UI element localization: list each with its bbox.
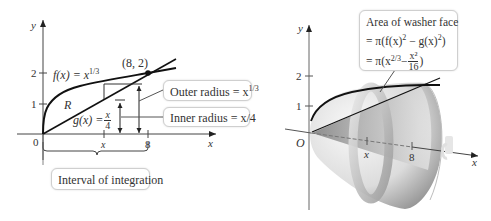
right-y-tick-2: 2 (296, 70, 302, 82)
washer-callout-line1: Area of washer face (366, 15, 451, 30)
right-x-tick-x: x (363, 148, 369, 160)
right-origin-label: O (296, 136, 305, 150)
washer-area-callout: Area of washer face = π(f(x)2 − g(x)2) =… (359, 10, 458, 71)
washer-callout-line2: = π(f(x)2 − g(x)2) (366, 30, 451, 49)
washer-callout-line3: = π(x2/3 − x²16 ) (366, 51, 451, 72)
right-y-axis-label: y (297, 22, 303, 34)
right-x-tick-8: 8 (409, 151, 415, 163)
right-y-tick-1: 1 (296, 100, 302, 112)
right-x-axis-label: x (471, 156, 477, 168)
